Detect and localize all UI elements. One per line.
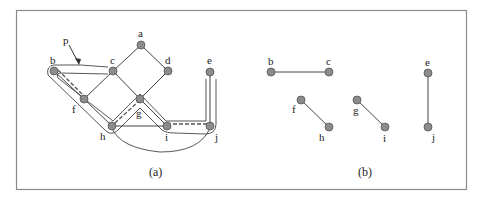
node-c [325,68,333,76]
label-i: i [383,132,386,144]
label-g: g [353,104,359,116]
label-f: f [292,103,296,115]
node-f [297,96,305,104]
label-d: d [165,54,171,66]
label-h: h [319,131,325,143]
node-b [267,68,275,76]
label-a: a [138,27,143,39]
panel-b-edges [271,72,428,127]
node-j [424,123,432,131]
node-b [50,67,58,75]
label-f: f [72,103,76,115]
label-i: i [165,131,168,143]
label-j: j [214,131,218,143]
node-h [108,122,116,130]
label-c: c [110,54,115,66]
label-h: h [100,130,106,142]
label-e: e [207,54,212,66]
node-f [80,95,88,103]
panel-b-labels: b c f h g i e j [268,55,435,144]
node-h [325,123,333,131]
graph-edges [54,45,210,126]
label-b: b [50,54,56,66]
node-g [353,96,361,104]
node-e [424,69,432,77]
path-p-label: p [63,34,69,46]
label-c: c [326,55,331,67]
panel-a: p a b c d e f g h i j (a) [48,27,218,179]
caption-a: (a) [149,165,162,179]
panel-a-nodes [50,41,214,130]
label-j: j [431,131,435,143]
label-g: g [136,107,142,119]
label-e: e [425,56,430,68]
matching-diagram: p a b c d e f g h i j (a) [0,0,482,203]
node-d [164,67,172,75]
node-g [136,95,144,103]
node-c [109,67,117,75]
node-e [206,68,214,76]
label-b: b [268,55,274,67]
panel-b: b c f h g i e j (b) [267,55,435,179]
node-a [137,41,145,49]
node-i [163,122,171,130]
panel-b-nodes [267,68,432,131]
node-i [381,123,389,131]
node-j [206,122,214,130]
caption-b: (b) [358,165,372,179]
path-p-pointer: p [63,34,81,65]
